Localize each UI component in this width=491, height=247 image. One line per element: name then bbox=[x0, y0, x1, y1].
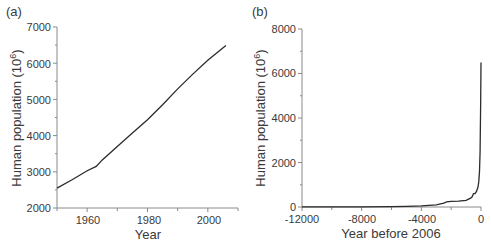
panel-a-x-axis-title: Year bbox=[135, 227, 162, 242]
panel-a-xtick-label: 1980 bbox=[137, 214, 161, 226]
panel-a-ytick-label: 5000 bbox=[27, 94, 51, 106]
panel-a-population-line bbox=[57, 46, 226, 189]
figure: (a) 2000 3000 4000 5000 6000 7000 1960 1… bbox=[0, 0, 491, 247]
panel-b-y-ticks bbox=[298, 29, 302, 207]
panel-b-ytick-label: 0 bbox=[290, 201, 296, 213]
panel-b-xtick-label: -8000 bbox=[348, 213, 376, 225]
panel-b-xtick-label: 0 bbox=[478, 213, 484, 225]
panel-b-xtick-label: -12000 bbox=[285, 213, 319, 225]
panel-b: (b) 0 2000 4000 6000 8000 -12000 -8000 -… bbox=[252, 4, 484, 241]
panel-b-y-axis-title: Human population (106) bbox=[252, 49, 268, 186]
panel-a-ytick-label: 3000 bbox=[27, 166, 51, 178]
panel-a-label: (a) bbox=[6, 4, 22, 19]
panel-a-y-axis-title: Human population (106) bbox=[8, 49, 24, 186]
panel-a-ytick-label: 6000 bbox=[27, 58, 51, 70]
panel-a-ytick-label: 2000 bbox=[27, 202, 51, 214]
panel-a-x-ticks bbox=[57, 208, 238, 212]
panel-a: (a) 2000 3000 4000 5000 6000 7000 1960 1… bbox=[6, 4, 238, 242]
panel-b-ytick-label: 2000 bbox=[272, 157, 296, 169]
panel-b-ytick-label: 4000 bbox=[272, 112, 296, 124]
panel-b-ytick-label: 8000 bbox=[272, 23, 296, 35]
panel-a-xtick-label: 2000 bbox=[197, 214, 221, 226]
panel-b-ytick-label: 6000 bbox=[272, 67, 296, 79]
panel-a-ytick-label: 7000 bbox=[27, 21, 51, 33]
panel-b-label: (b) bbox=[252, 4, 268, 19]
panel-b-x-axis-title: Year before 2006 bbox=[341, 226, 440, 241]
panel-a-ytick-label: 4000 bbox=[27, 130, 51, 142]
panel-b-population-line bbox=[302, 62, 481, 207]
panel-b-x-ticks bbox=[302, 207, 481, 211]
panel-a-y-ticks bbox=[53, 27, 57, 208]
panel-a-xtick-label: 1960 bbox=[76, 214, 100, 226]
panel-b-xtick-label: -4000 bbox=[408, 213, 436, 225]
